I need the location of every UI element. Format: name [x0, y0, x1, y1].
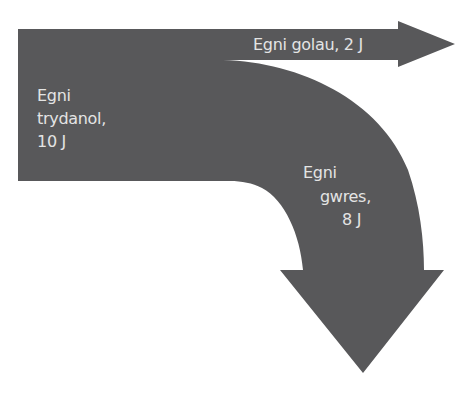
sankey-diagram [0, 0, 470, 393]
input-label-line2: trydanol, [37, 107, 106, 130]
heat-output-label-line1: Egni [303, 161, 337, 184]
heat-energy-flow [18, 29, 444, 373]
heat-output-label-line2: gwres, [320, 185, 371, 208]
input-label-line1: Egni [37, 84, 71, 107]
heat-output-label-line3: 8 J [342, 208, 361, 231]
input-label-line3: 10 J [37, 130, 66, 153]
light-output-label: Egni golau, 2 J [253, 33, 363, 56]
